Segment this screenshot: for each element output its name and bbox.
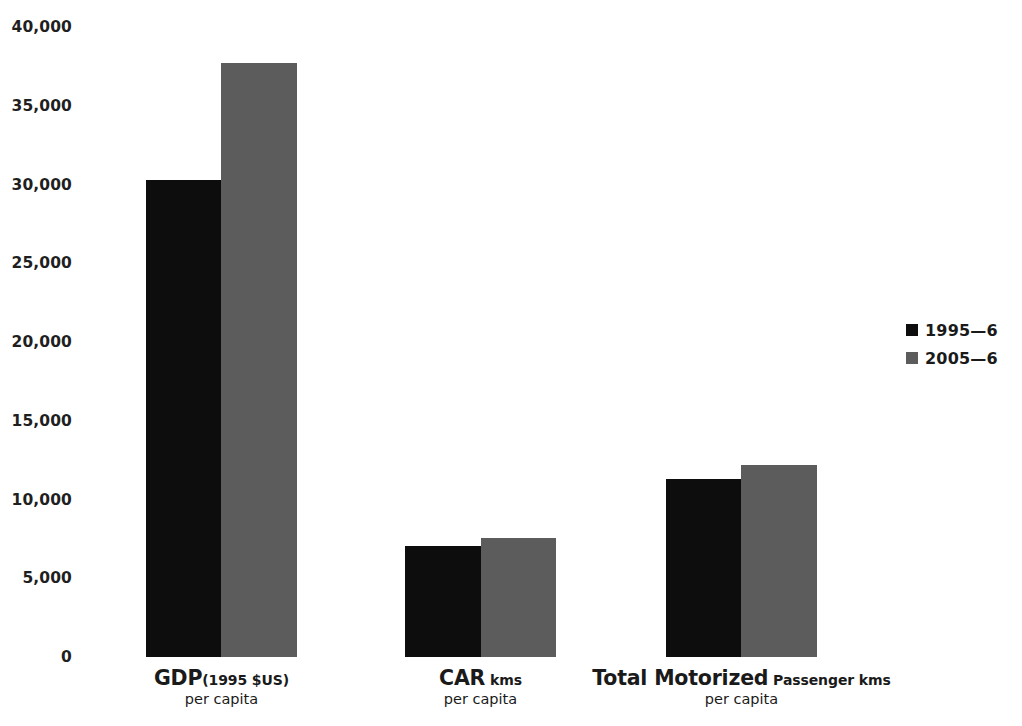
legend-swatch-icon xyxy=(906,352,918,364)
x-category-main-text: Total Motorized xyxy=(592,666,768,690)
legend-item-1[interactable]: 2005—6 xyxy=(906,344,1022,372)
legend-swatch-icon xyxy=(906,324,918,336)
x-category-label-2: Total Motorized Passenger kmsper capita xyxy=(542,668,942,709)
bar-0-2 xyxy=(666,479,741,657)
legend: 1995—62005—6 xyxy=(906,316,1022,372)
plot-area xyxy=(0,0,1022,726)
legend-item-0[interactable]: 1995—6 xyxy=(906,316,1022,344)
x-category-main-text: CAR xyxy=(439,666,485,690)
x-category-main-text: GDP xyxy=(154,666,202,690)
bar-1-2 xyxy=(741,465,817,657)
legend-label: 1995—6 xyxy=(925,321,998,340)
x-category-sub-text: Passenger kms xyxy=(768,672,890,688)
bar-chart: 40,00035,00030,00025,00020,00015,00010,0… xyxy=(0,0,1022,726)
bar-1-1 xyxy=(481,538,556,657)
bar-0-1 xyxy=(405,546,481,657)
legend-label: 2005—6 xyxy=(925,349,998,368)
x-category-sub-text: (1995 $US) xyxy=(202,672,289,688)
bar-1-0 xyxy=(221,63,297,657)
x-category-percapita-text: per capita xyxy=(542,690,942,710)
x-category-sub-text: kms xyxy=(485,672,522,688)
x-category-label-main-line: Total Motorized Passenger kms xyxy=(542,668,942,690)
bar-0-0 xyxy=(146,180,221,657)
